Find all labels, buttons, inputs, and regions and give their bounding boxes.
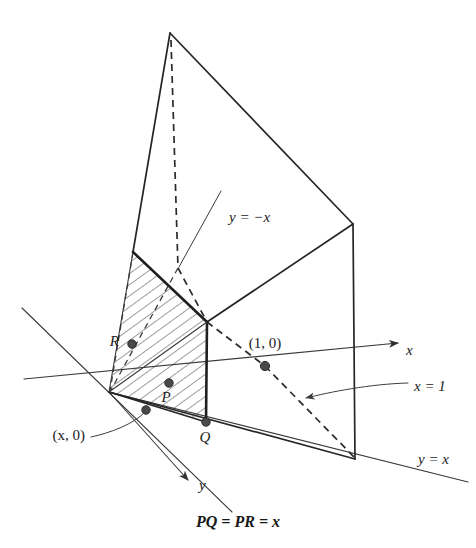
dashed-point-1-0-to-bottom-right (265, 366, 354, 457)
edge-base-origin-to-bottom-right (109, 392, 355, 459)
dot-point-x-0 (142, 406, 150, 414)
label-point-1-0: (1, 0) (249, 335, 282, 352)
label-point-x-0: (x, 0) (53, 427, 86, 444)
dot-point-1-0 (260, 361, 269, 370)
edge-apex-to-right-top (170, 33, 353, 224)
x-axis (24, 343, 398, 379)
label-vertex-P: P (160, 389, 170, 405)
edge-apex-to-left-shoulder (133, 33, 170, 252)
leader-x-equals-1 (306, 383, 408, 398)
solid-diagram-svg: y = −x (1, 0) x y x = 1 y = x (x, 0) R P… (0, 0, 476, 548)
label-vertex-R: R (109, 333, 119, 349)
label-vertex-Q: Q (200, 429, 211, 445)
dashed-apex-to-base (171, 40, 178, 268)
figure-caption: PQ = PR = x (195, 513, 280, 530)
dot-R (128, 340, 136, 348)
label-x-equals-1: x = 1 (413, 378, 446, 394)
label-y-axis: y (197, 477, 206, 493)
edge-right-vertical (353, 224, 355, 459)
figure-root: y = −x (1, 0) x y x = 1 y = x (x, 0) R P… (0, 0, 476, 548)
label-y-equals-x: y = x (416, 451, 449, 467)
label-y-equals-minus-x: y = −x (227, 209, 270, 225)
text-labels: y = −x (1, 0) x y x = 1 y = x (x, 0) R P… (53, 209, 450, 493)
dot-Q (202, 418, 210, 426)
leader-y-equals-minus-x (179, 191, 221, 267)
edge-hatch-right-vertical (206, 322, 207, 422)
leader-point-x-0 (91, 412, 145, 437)
label-x-axis: x (405, 342, 413, 358)
edge-right-top-to-ridge (207, 224, 353, 322)
axis-group (22, 308, 468, 512)
dot-P (165, 379, 173, 387)
